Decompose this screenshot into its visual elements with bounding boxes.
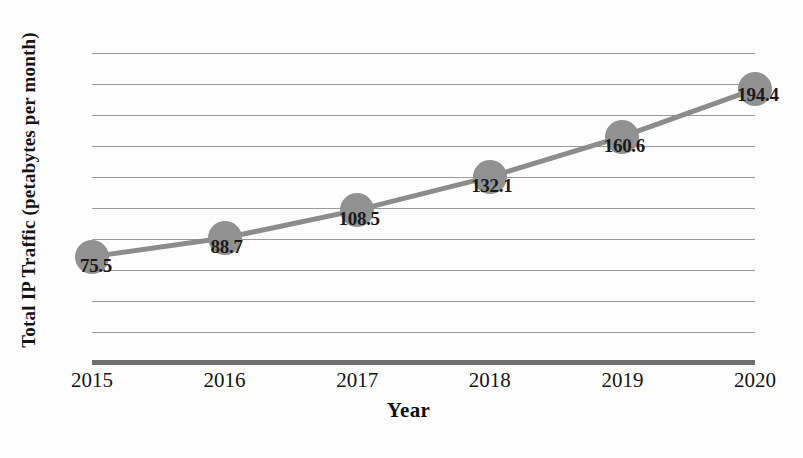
x-axis-tick-label: 2020 — [734, 368, 776, 393]
series-line-layer — [0, 0, 803, 458]
data-point-label: 88.7 — [211, 236, 243, 258]
x-axis-tick-label: 2019 — [601, 368, 643, 393]
data-point-label: 108.5 — [339, 208, 380, 230]
x-axis-tick-label: 2015 — [71, 368, 113, 393]
series-line — [92, 89, 755, 257]
data-point-label: 75.5 — [80, 255, 112, 277]
x-axis-tick-label: 2017 — [336, 368, 378, 393]
x-axis-tick-label: 2018 — [469, 368, 511, 393]
chart-figure: Total IP Traffic (petabytes per month) 7… — [0, 0, 803, 458]
data-point-label: 132.1 — [471, 175, 512, 197]
data-point-label: 160.6 — [604, 135, 645, 157]
x-axis-title-text: Year — [387, 398, 431, 422]
x-axis-title: Year — [0, 398, 803, 423]
x-axis-tick-label: 2016 — [204, 368, 246, 393]
data-point-label: 194.4 — [737, 84, 778, 106]
